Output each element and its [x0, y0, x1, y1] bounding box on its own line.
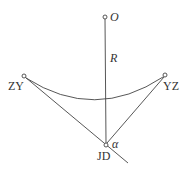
tangent-line-yz-jd: [107, 77, 164, 143]
label-o: O: [110, 10, 119, 24]
point-yz-marker: [163, 73, 167, 77]
diagram-canvas: O R ZY YZ JD α: [0, 0, 187, 172]
label-yz: YZ: [163, 79, 179, 93]
point-o-marker: [103, 15, 107, 19]
point-jd-marker: [104, 143, 108, 147]
label-jd: JD: [97, 149, 111, 163]
radius-line: [105, 19, 106, 143]
label-alpha: α: [112, 137, 119, 151]
label-r: R: [109, 51, 118, 65]
point-zy-marker: [22, 74, 26, 78]
curve-diagram: O R ZY YZ JD α: [0, 0, 187, 172]
label-zy: ZY: [8, 79, 24, 93]
circular-arc: [26, 77, 163, 100]
